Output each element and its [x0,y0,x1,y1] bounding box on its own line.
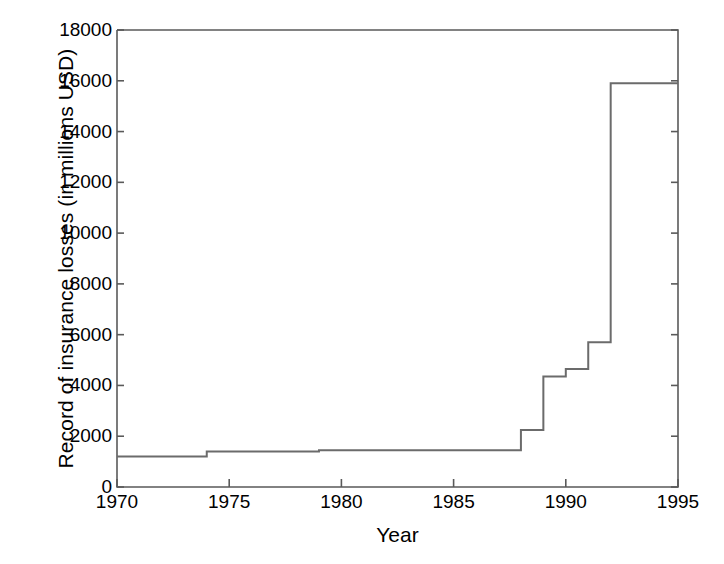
axis-ticks [117,30,678,487]
step-series-line [117,83,678,456]
plot-area [0,0,724,564]
chart-figure: Record of insurance losses (in millions … [0,0,724,564]
axes-frame [117,30,678,487]
axis-box [117,30,678,487]
